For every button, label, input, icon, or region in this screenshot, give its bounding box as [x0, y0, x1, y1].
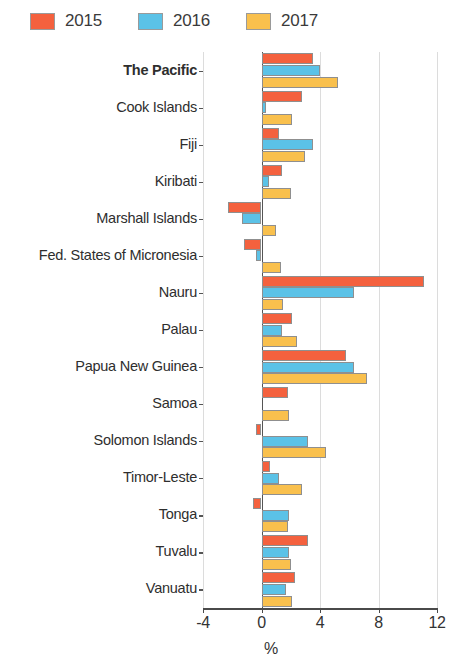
category-label-papua-new-guinea: Papua New Guinea: [0, 358, 197, 374]
bar-2017-timor-leste: [262, 484, 303, 495]
bar-2015-fed-states-of-micronesia: [244, 239, 262, 250]
category-label-marshall-islands: Marshall Islands: [0, 210, 197, 226]
bar-2016-the-pacific: [262, 65, 321, 76]
bar-2017-papua-new-guinea: [262, 373, 367, 384]
bar-2016-solomon-islands: [262, 436, 309, 447]
category-label-tuvalu: Tuvalu: [0, 543, 197, 559]
x-tick-mark-8: [379, 608, 380, 613]
bar-2017-tonga: [262, 521, 288, 532]
x-tick-mark-0: [262, 608, 263, 613]
category-label-tonga: Tonga: [0, 506, 197, 522]
category-label-the-pacific: The Pacific: [0, 62, 197, 78]
x-axis-title-text: %: [264, 640, 278, 658]
category-label-samoa: Samoa: [0, 395, 197, 411]
category-label-palau: Palau: [0, 321, 197, 337]
bar-2015-nauru: [262, 276, 424, 287]
category-tick: [199, 552, 203, 553]
bar-2016-tonga: [262, 510, 290, 521]
category-tick: [199, 589, 203, 590]
bar-2016-vanuatu: [262, 584, 287, 595]
bar-2016-fed-states-of-micronesia: [256, 250, 262, 261]
bar-2016-kiribati: [262, 176, 269, 187]
category-tick: [199, 219, 203, 220]
bar-2017-solomon-islands: [262, 447, 326, 458]
category-tick: [199, 404, 203, 405]
category-tick: [199, 515, 203, 516]
category-tick: [199, 330, 203, 331]
bar-2016-tuvalu: [262, 547, 290, 558]
x-tick-mark-4: [320, 608, 321, 613]
bar-2016-marshall-islands: [242, 213, 261, 224]
x-tick-label-12: 12: [417, 614, 450, 632]
category-label-kiribati: Kiribati: [0, 173, 197, 189]
bar-2017-nauru: [262, 299, 284, 310]
bar-2017-samoa: [262, 410, 290, 421]
bar-2017-palau: [262, 336, 297, 347]
legend-label-2015: 2015: [65, 11, 102, 31]
bar-2016-timor-leste: [262, 473, 280, 484]
bar-2017-tuvalu: [262, 559, 291, 570]
x-tick-label-0: 0: [242, 614, 282, 632]
bar-2016-palau: [262, 325, 282, 336]
category-label-cook-islands: Cook Islands: [0, 99, 197, 115]
x-tick-label-8: 8: [359, 614, 399, 632]
legend-2015[interactable]: 2015: [30, 11, 102, 31]
category-label-solomon-islands: Solomon Islands: [0, 432, 197, 448]
category-tick: [199, 108, 203, 109]
category-label-timor-leste: Timor-Leste: [0, 469, 197, 485]
gridline--4: [203, 52, 204, 608]
bar-2015-solomon-islands: [256, 424, 262, 435]
x-tick-mark--4: [203, 608, 204, 613]
category-label-vanuatu: Vanuatu: [0, 580, 197, 596]
bar-2016-nauru: [262, 287, 354, 298]
plot-area: The PacificCook IslandsFijiKiribatiMarsh…: [0, 52, 444, 612]
category-tick: [199, 145, 203, 146]
bar-2017-fiji: [262, 151, 306, 162]
category-tick: [199, 182, 203, 183]
bar-2015-palau: [262, 313, 293, 324]
bar-2015-fiji: [262, 128, 280, 139]
bar-2017-kiribati: [262, 188, 291, 199]
bar-2015-marshall-islands: [228, 202, 262, 213]
bar-2015-tonga: [253, 498, 262, 509]
x-tick-label--4: -4: [183, 614, 223, 632]
bar-2017-fed-states-of-micronesia: [262, 262, 281, 273]
bar-2015-timor-leste: [262, 461, 271, 472]
category-label-nauru: Nauru: [0, 284, 197, 300]
bar-2017-vanuatu: [262, 596, 293, 607]
bar-2017-marshall-islands: [262, 225, 277, 236]
legend-2017[interactable]: 2017: [246, 11, 318, 31]
category-tick: [199, 71, 203, 72]
category-label-fed-states-of-micronesia: Fed. States of Micronesia: [0, 247, 197, 263]
category-label-fiji: Fiji: [0, 136, 197, 152]
category-tick: [199, 441, 203, 442]
bar-2017-cook-islands: [262, 114, 293, 125]
bar-2015-samoa: [262, 387, 288, 398]
bar-2017-the-pacific: [262, 77, 338, 88]
legend-swatch-2015: [30, 13, 55, 30]
category-tick: [199, 293, 203, 294]
gridline-8: [379, 52, 380, 608]
category-tick: [199, 478, 203, 479]
bar-2015-kiribati: [262, 165, 282, 176]
bars-canvas: [203, 52, 437, 608]
legend-label-2016: 2016: [173, 11, 210, 31]
bar-2015-the-pacific: [262, 53, 313, 64]
gridline-4: [320, 52, 321, 608]
legend-2016[interactable]: 2016: [138, 11, 210, 31]
x-tick-label-4: 4: [300, 614, 340, 632]
gridline-12: [437, 52, 438, 608]
chart-legend: 201520162017: [30, 10, 354, 32]
category-tick: [199, 367, 203, 368]
bar-2015-vanuatu: [262, 572, 296, 583]
category-tick: [199, 256, 203, 257]
bar-2015-papua-new-guinea: [262, 350, 347, 361]
bar-2016-fiji: [262, 139, 313, 150]
legend-label-2017: 2017: [281, 11, 318, 31]
bar-2015-tuvalu: [262, 535, 309, 546]
category-axis-labels: The PacificCook IslandsFijiKiribatiMarsh…: [0, 52, 197, 608]
legend-swatch-2016: [138, 13, 163, 30]
x-tick-mark-12: [437, 608, 438, 613]
bar-2016-papua-new-guinea: [262, 362, 354, 373]
